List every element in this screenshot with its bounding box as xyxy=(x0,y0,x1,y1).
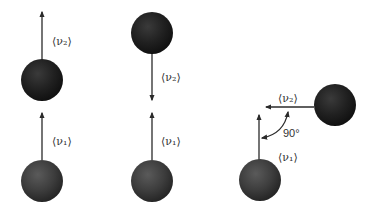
label-v2: ⟨ν₂⟩ xyxy=(52,35,72,48)
ball-top xyxy=(131,12,173,54)
ball-bottom xyxy=(21,160,63,202)
label-v2: ⟨ν₂⟩ xyxy=(161,71,181,84)
label-v1: ⟨ν₁⟩ xyxy=(52,135,72,148)
label-v1: ⟨ν₁⟩ xyxy=(278,151,298,164)
label-v2: ⟨ν₂⟩ xyxy=(278,92,298,105)
ball-top xyxy=(21,59,63,101)
panel-parallel: ⟨ν₂⟩ ⟨ν₁⟩ xyxy=(21,12,72,202)
panel-perpendicular: ⟨ν₂⟩ ⟨ν₁⟩ 90° xyxy=(239,84,356,201)
ball-right xyxy=(314,84,356,126)
ball-bottom xyxy=(239,159,281,201)
velocity-diagram: ⟨ν₂⟩ ⟨ν₁⟩ ⟨ν₂⟩ ⟨ν₁⟩ ⟨ν₂⟩ ⟨ν₁⟩ 90° xyxy=(0,0,376,212)
angle-label: 90° xyxy=(283,127,300,139)
ball-bottom xyxy=(131,160,173,202)
panel-antiparallel: ⟨ν₂⟩ ⟨ν₁⟩ xyxy=(131,12,181,202)
label-v1: ⟨ν₁⟩ xyxy=(161,135,181,148)
